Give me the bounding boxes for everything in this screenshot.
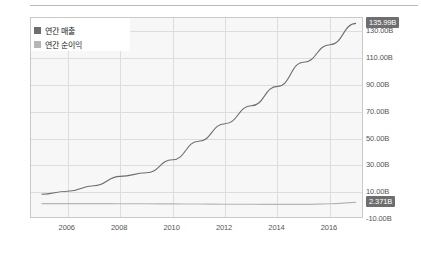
line-net-income [42,202,357,204]
x-axis-tick: 2010 [163,223,179,232]
value-badge-revenue: 135.99B [366,17,399,28]
legend-label-net-income: 연간 순이익 [45,39,82,50]
y-axis-tick: 10.00B [366,187,389,196]
x-axis-labels: 200620082010201220142016 [30,223,363,237]
legend-label-revenue: 연간 매출 [45,25,75,36]
top-divider [30,5,418,6]
y-axis-tick: 90.00B [366,80,389,89]
value-badge-net-income: 2.371B [366,196,395,207]
x-axis-tick: 2008 [111,223,127,232]
y-axis-labels: 130.00B110.00B90.00B70.00B50.00B30.00B10… [366,0,421,258]
y-axis-tick: 70.00B [366,107,389,116]
legend-swatch-revenue [34,27,41,34]
y-axis-tick: 30.00B [366,160,389,169]
y-axis-tick: -10.00B [366,214,392,223]
legend-item-revenue[interactable]: 연간 매출 [34,24,130,37]
y-axis-tick: 50.00B [366,134,389,143]
chart-screenshot: 연간 매출 연간 순이익 130.00B110.00B90.00B70.00B5… [0,0,421,258]
x-axis-tick: 2016 [321,223,337,232]
x-axis-tick: 2012 [216,223,232,232]
legend-swatch-net-income [34,41,41,48]
x-axis-tick: 2006 [59,223,75,232]
chart-legend: 연간 매출 연간 순이익 [31,18,130,51]
legend-item-net-income[interactable]: 연간 순이익 [34,38,130,51]
x-axis-tick: 2014 [268,223,284,232]
y-axis-tick: 110.00B [366,53,393,62]
